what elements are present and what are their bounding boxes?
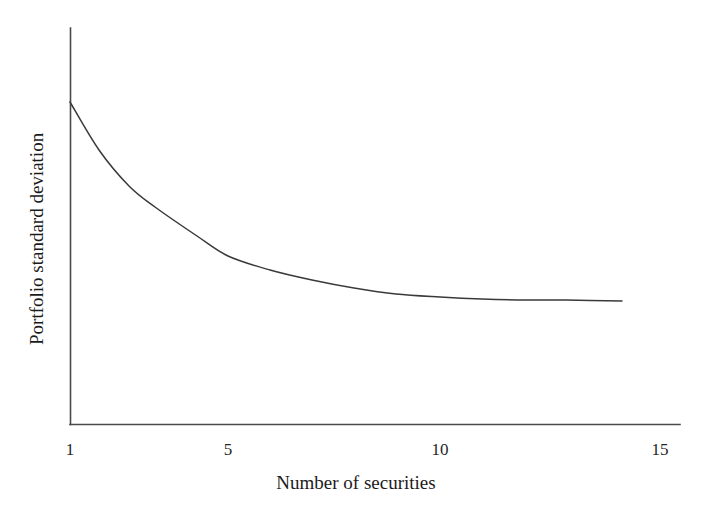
x-tick-label-1: 1	[55, 441, 85, 458]
x-tick-label-10: 10	[423, 441, 457, 458]
chart-canvas	[0, 0, 712, 521]
x-tick-label-15: 15	[643, 441, 677, 458]
x-axis-title: Number of securities	[0, 472, 712, 494]
chart-figure: 1 5 10 15 Number of securities Portfolio…	[0, 0, 712, 521]
y-axis-title: Portfolio standard deviation	[22, 0, 52, 345]
portfolio-risk-curve	[70, 102, 622, 301]
x-tick-label-5: 5	[213, 441, 243, 458]
